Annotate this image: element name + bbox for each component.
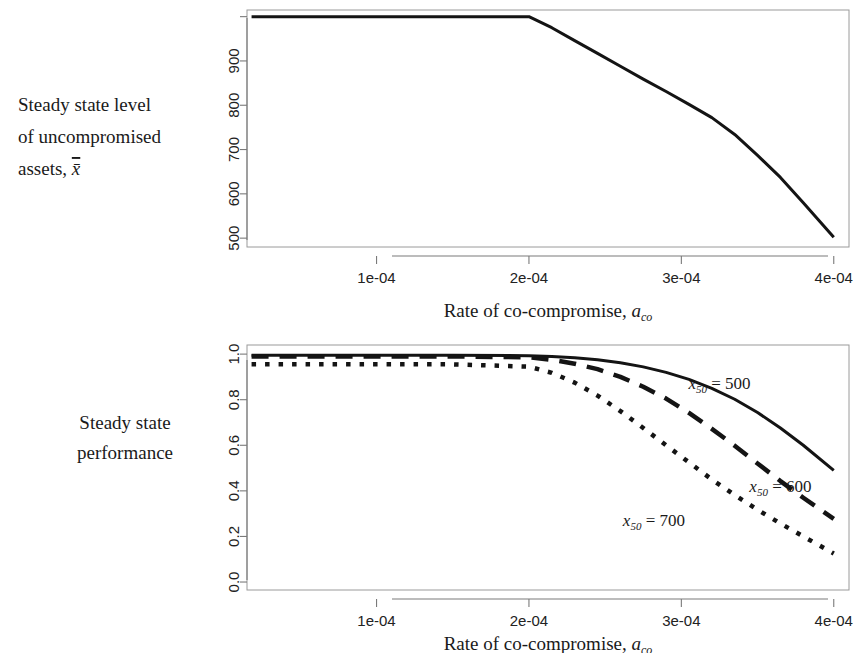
- top-x-axis-title: Rate of co-compromise, aco: [444, 300, 653, 324]
- figure-svg: Steady state level of uncompromised asse…: [0, 0, 853, 653]
- series-annotation: x50 = 600: [748, 477, 811, 498]
- top-side-label-line-1: Steady state level: [18, 94, 151, 115]
- top-y-axis: 500600700800900: [226, 17, 248, 251]
- series-annotation: x50 = 700: [622, 511, 685, 532]
- x-tick-label: 3e-04: [662, 269, 700, 286]
- x-tick-label: 1e-04: [357, 269, 395, 286]
- series-annotation: x50 = 500: [687, 374, 750, 395]
- top-side-label-line-3: assets, x̄: [18, 158, 81, 179]
- bottom-plot-frame: [247, 345, 849, 590]
- chart-steady-state-assets: 500600700800900 1e-042e-043e-044e-04 Rat…: [226, 10, 853, 324]
- bottom-curve-annotations: x50 = 500x50 = 600x50 = 700: [622, 374, 812, 532]
- y-tick-label: 800: [226, 93, 243, 118]
- figure-container: Steady state level of uncompromised asse…: [0, 0, 853, 653]
- y-tick-label: 0.0: [226, 572, 243, 593]
- bottom-x-ticks: [377, 599, 834, 607]
- x-tick-label: 3e-04: [662, 612, 700, 629]
- bottom-y-tick-labels: 0.00.20.40.60.81.0: [226, 344, 243, 593]
- top-panel-side-label: Steady state level of uncompromised asse…: [18, 94, 162, 179]
- y-tick-label: 0.4: [226, 480, 243, 501]
- x-tick-label: 4e-04: [815, 269, 853, 286]
- chart-steady-state-performance: 0.00.20.40.60.81.0 1e-042e-043e-044e-04 …: [226, 344, 853, 653]
- top-x-axis: 1e-042e-043e-044e-04: [357, 256, 853, 286]
- series-line: [252, 17, 834, 238]
- y-tick-label: 0.6: [226, 435, 243, 456]
- top-x-tick-labels: 1e-042e-043e-044e-04: [357, 269, 853, 286]
- bottom-x-tick-labels: 1e-042e-043e-044e-04: [357, 612, 853, 629]
- bottom-y-axis: 0.00.20.40.60.81.0: [226, 344, 248, 593]
- top-plot-frame: [247, 10, 849, 247]
- top-side-label-line-2: of uncompromised: [18, 126, 162, 147]
- top-y-tick-labels: 500600700800900: [226, 48, 243, 250]
- bottom-panel-side-label: Steady state performance: [77, 412, 173, 463]
- y-tick-label: 0.2: [226, 526, 243, 547]
- y-tick-label: 700: [226, 137, 243, 162]
- bottom-side-label-line-2: performance: [77, 442, 173, 463]
- y-tick-label: 0.8: [226, 389, 243, 410]
- y-tick-label: 600: [226, 181, 243, 206]
- y-tick-label: 900: [226, 48, 243, 73]
- y-tick-label: 500: [226, 226, 243, 251]
- x-tick-label: 2e-04: [510, 269, 548, 286]
- bottom-side-label-line-1: Steady state: [79, 412, 170, 433]
- x-tick-label: 1e-04: [357, 612, 395, 629]
- bottom-x-axis: 1e-042e-043e-044e-04: [357, 599, 853, 629]
- top-x-ticks: [377, 256, 834, 264]
- x-tick-label: 4e-04: [815, 612, 853, 629]
- bottom-x-axis-title: Rate of co-compromise, aco: [444, 633, 653, 653]
- y-tick-label: 1.0: [226, 344, 243, 365]
- top-data-curves: [252, 17, 834, 238]
- x-tick-label: 2e-04: [510, 612, 548, 629]
